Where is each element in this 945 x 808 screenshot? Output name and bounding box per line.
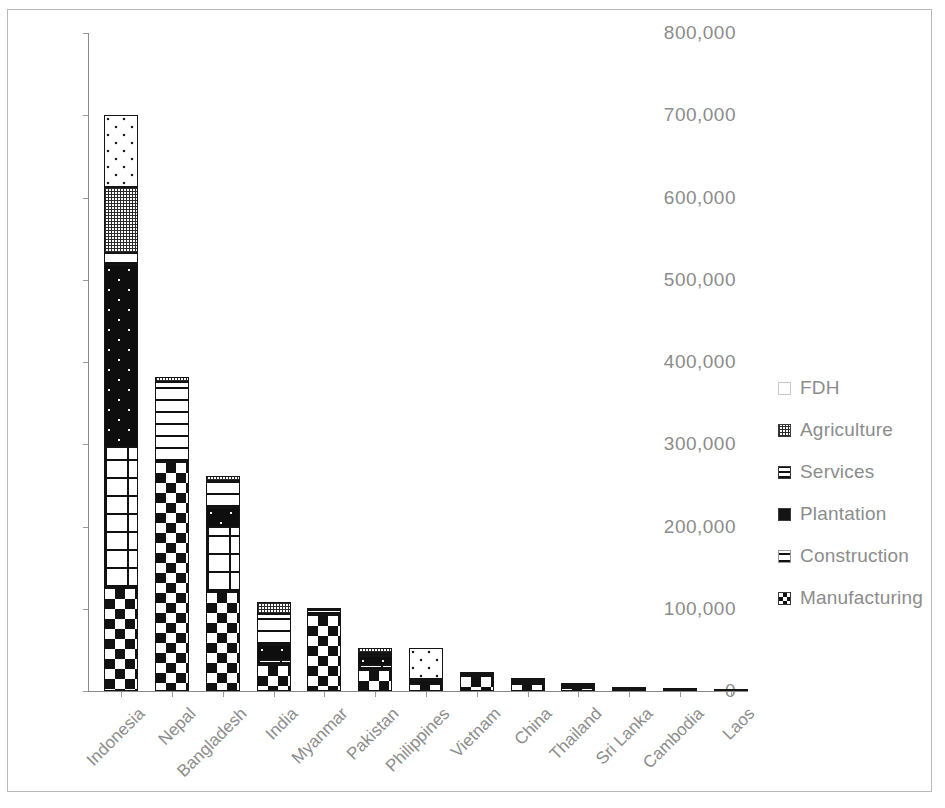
stacked-bar <box>307 610 341 691</box>
x-axis-tick-mark <box>578 692 579 697</box>
bar-segment-manufacturing <box>409 684 443 691</box>
bar-segment-agriculture <box>612 687 646 689</box>
x-axis-tick-mark <box>375 692 376 697</box>
y-axis-line <box>88 33 89 692</box>
bar-segment-plantation <box>257 645 291 660</box>
stacked-bar <box>409 648 443 691</box>
bar-segment-construction <box>104 447 138 588</box>
stacked-bar <box>460 674 494 691</box>
stacked-bar <box>155 377 189 691</box>
legend-item-label: Agriculture <box>800 419 893 441</box>
y-axis-tick-label: 100,000 <box>664 598 736 620</box>
bar-segment-services <box>155 382 189 463</box>
bar-segment-agriculture <box>104 187 138 253</box>
y-axis-tick-mark <box>83 198 88 199</box>
legend-item-plantation[interactable]: Plantation <box>778 493 938 535</box>
fdh-swatch-icon <box>778 382 791 395</box>
stacked-bar <box>511 680 545 691</box>
y-axis-tick-label: 600,000 <box>664 187 736 209</box>
bar-segment-plantation <box>104 265 138 447</box>
legend-item-label: FDH <box>800 377 840 399</box>
legend-item-label: Construction <box>800 545 909 567</box>
legend-item-label: Services <box>800 461 874 483</box>
y-axis-tick-mark <box>83 362 88 363</box>
bar-segment-agriculture <box>663 688 697 690</box>
legend-item-services[interactable]: Services <box>778 451 938 493</box>
stacked-bar <box>663 689 697 691</box>
stacked-bar <box>206 476 240 691</box>
stacked-bar <box>104 115 138 691</box>
x-axis-line <box>88 691 748 692</box>
y-axis-tick-mark <box>83 115 88 116</box>
legend-item-construction[interactable]: Construction <box>778 535 938 577</box>
bar-segment-manufacturing <box>206 592 240 691</box>
y-axis-tick-label: 200,000 <box>664 516 736 538</box>
bar-segment-agriculture <box>714 689 748 691</box>
bar-segment-services <box>358 653 392 655</box>
x-axis-tick-mark <box>731 692 732 697</box>
construction-swatch-icon <box>778 550 791 563</box>
bar-segment-manufacturing <box>307 615 341 691</box>
bar-segment-construction <box>358 665 392 671</box>
bar-segment-manufacturing <box>358 670 392 691</box>
services-swatch-icon <box>778 466 791 479</box>
stacked-bar <box>257 602 291 691</box>
y-axis-tick-mark <box>83 527 88 528</box>
x-axis-label-indonesia: Indonesia <box>83 704 149 770</box>
bar-segment-manufacturing <box>511 684 545 691</box>
bar-segment-agriculture <box>307 608 341 610</box>
x-axis-tick-mark <box>477 692 478 697</box>
bar-segment-services <box>511 680 545 682</box>
x-axis-tick-mark <box>324 692 325 697</box>
bar-segment-fdh <box>104 115 138 187</box>
bar-segment-construction <box>257 660 291 665</box>
bar-segment-plantation <box>409 681 443 684</box>
bar-segment-fdh <box>409 648 443 679</box>
legend-item-agriculture[interactable]: Agriculture <box>778 409 938 451</box>
bar-segment-plantation <box>358 656 392 665</box>
chart-legend: FDHAgricultureServicesPlantationConstruc… <box>778 367 938 619</box>
x-axis-tick-mark <box>528 692 529 697</box>
x-axis-tick-mark <box>172 692 173 697</box>
y-axis-tick-mark <box>83 33 88 34</box>
bar-segment-services <box>206 481 240 508</box>
bar-segment-manufacturing <box>460 676 494 691</box>
x-axis-tick-mark <box>223 692 224 697</box>
stacked-bar <box>612 688 646 691</box>
y-axis-tick-label: 500,000 <box>664 269 736 291</box>
bar-segment-services <box>307 610 341 615</box>
x-axis-label-india: India <box>262 704 302 744</box>
x-axis-tick-mark <box>121 692 122 697</box>
x-axis-tick-mark <box>680 692 681 697</box>
x-axis-tick-mark <box>274 692 275 697</box>
y-axis-tick-mark <box>83 444 88 445</box>
x-axis-tick-mark <box>629 692 630 697</box>
bar-segment-agriculture <box>257 602 291 614</box>
bar-segment-agriculture <box>358 648 392 653</box>
manufacturing-swatch-icon <box>778 592 791 605</box>
bar-segment-manufacturing <box>257 665 291 691</box>
stacked-bar <box>714 689 748 691</box>
x-axis-label-china: China <box>510 704 556 750</box>
legend-item-manufacturing[interactable]: Manufacturing <box>778 577 938 619</box>
x-axis-tick-mark <box>426 692 427 697</box>
bar-segment-manufacturing <box>561 688 595 691</box>
bar-segment-agriculture <box>155 377 189 382</box>
bar-segment-manufacturing <box>104 588 138 691</box>
y-axis-tick-label: 0 <box>725 680 736 702</box>
bar-segment-agriculture <box>511 678 545 680</box>
y-axis-tick-label: 700,000 <box>664 104 736 126</box>
y-axis-tick-mark <box>83 280 88 281</box>
y-axis-tick-label: 400,000 <box>664 351 736 373</box>
legend-item-label: Plantation <box>800 503 887 525</box>
y-axis-tick-label: 800,000 <box>664 22 736 44</box>
x-axis-label-vietnam: Vietnam <box>447 704 505 762</box>
stacked-bar <box>358 648 392 691</box>
bar-segment-services <box>104 253 138 265</box>
bar-segment-agriculture <box>460 672 494 674</box>
legend-item-fdh[interactable]: FDH <box>778 367 938 409</box>
plantation-swatch-icon <box>778 508 791 521</box>
stacked-bar <box>561 685 595 691</box>
y-axis-tick-mark <box>83 609 88 610</box>
plot-area: 0100,000200,000300,000400,000500,000600,… <box>88 33 748 692</box>
